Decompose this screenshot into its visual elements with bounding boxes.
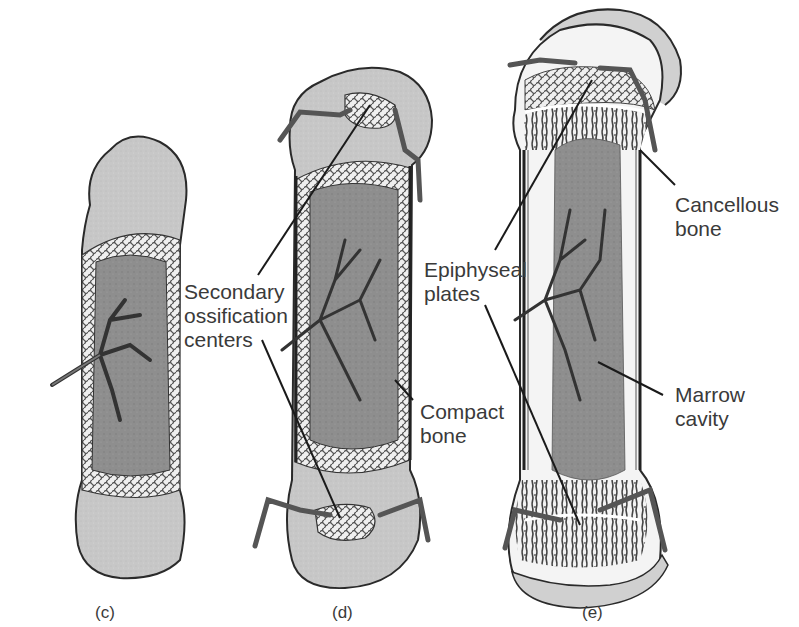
bone-ossification-diagram [0,0,799,627]
label-epiphyseal-plates: Epiphyseal plates [424,258,527,306]
label-marrow-cavity: Marrow cavity [675,383,745,431]
leader-cancellous-bone [640,150,675,185]
panel-label-e: (e) [582,603,603,623]
label-secondary-ossification-centers: Secondary ossification centers [184,280,288,352]
label-compact-bone: Compact bone [420,400,504,448]
label-cancellous-bone: Cancellous bone [675,193,779,241]
panel-label-d: (d) [332,603,353,623]
panel-e-bone [505,9,681,608]
panel-c-bone [52,137,186,579]
panel-label-c: (c) [95,603,115,623]
